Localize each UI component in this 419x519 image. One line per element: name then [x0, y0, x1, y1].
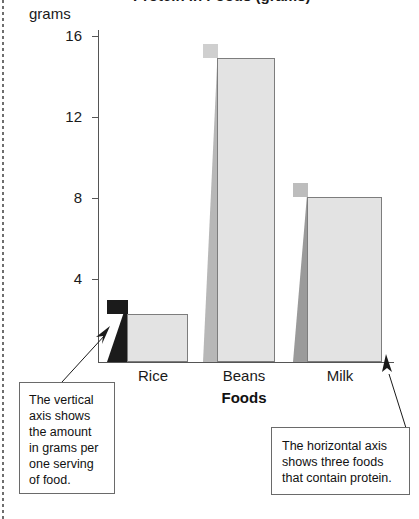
y-tick-4	[92, 279, 99, 280]
bar-milk[interactable]	[293, 183, 382, 362]
y-axis-title: grams	[29, 5, 71, 22]
bar-rice-top-face	[107, 300, 128, 314]
x-label-milk: Milk	[300, 367, 380, 384]
bar-milk-top-face	[293, 183, 308, 197]
horizontal-axis-note: The horizontal axis shows three foods th…	[271, 427, 410, 495]
bar-milk-front-face	[307, 197, 382, 362]
bar-beans[interactable]	[203, 44, 275, 362]
vertical-note-leader-line	[55, 322, 117, 386]
x-label-beans: Beans	[204, 367, 284, 384]
bar-beans-front-face	[217, 58, 275, 362]
x-label-rice: Rice	[113, 367, 193, 384]
horizontal-axis-note-text: The horizontal axis shows three foods th…	[282, 438, 409, 486]
x-axis-title: Foods	[204, 389, 284, 406]
y-axis-line	[98, 30, 99, 363]
y-tick-label-12: 12	[24, 108, 82, 125]
bar-rice[interactable]	[107, 300, 188, 362]
y-tick-12	[92, 117, 99, 118]
y-tick-label-8: 8	[24, 189, 82, 206]
y-tick-16	[92, 36, 99, 37]
bar-beans-top-face	[203, 44, 218, 58]
chart-page: Protein in Foods (grams) grams 16 12 8 4	[0, 0, 419, 519]
y-tick-label-4: 4	[24, 270, 82, 287]
vertical-axis-note: The vertical axis shows the amount in gr…	[19, 382, 115, 494]
y-tick-label-16: 16	[24, 27, 82, 44]
bar-beans-side-face	[203, 44, 218, 362]
horizontal-note-leader-line	[380, 360, 412, 432]
vertical-axis-note-text: The vertical axis shows the amount in gr…	[29, 392, 114, 488]
y-tick-8	[92, 198, 99, 199]
bar-rice-front-face	[127, 314, 188, 362]
x-axis-line	[98, 362, 394, 363]
bar-milk-side-face	[293, 183, 308, 362]
